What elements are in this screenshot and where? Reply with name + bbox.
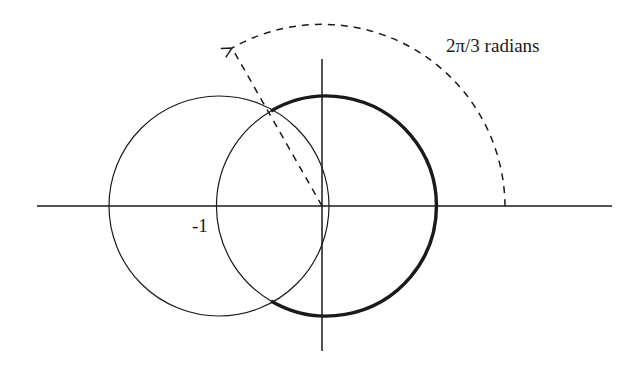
angle-label: 2π/3 radians xyxy=(446,35,540,56)
point-label-minus-one: -1 xyxy=(192,215,208,236)
circle-rotation-diagram: 2π/3 radians -1 xyxy=(0,0,638,370)
angle-ray xyxy=(232,48,322,206)
